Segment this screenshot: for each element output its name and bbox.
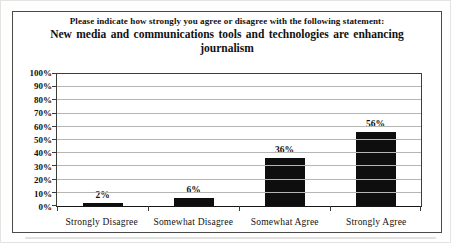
- y-axis-tick: [52, 179, 57, 180]
- category-label-strongly-disagree: Strongly Disagree: [56, 214, 148, 227]
- y-axis-tick: [52, 99, 57, 100]
- gridline: [57, 139, 421, 140]
- scan-shadow-artifact: [25, 237, 436, 239]
- bar-group-somewhat-disagree: 6%: [148, 74, 239, 206]
- gridline: [57, 126, 421, 127]
- y-axis-tick: [52, 73, 57, 74]
- x-axis-tick: [239, 206, 240, 211]
- y-axis-tick-label: 90%: [34, 81, 52, 91]
- gridline: [57, 113, 421, 114]
- category-label-strongly-agree: Strongly Agree: [331, 214, 423, 227]
- gridline: [57, 86, 421, 87]
- x-axis-tick: [330, 206, 331, 211]
- bar-series: 2% 6% 36% 56%: [57, 74, 421, 206]
- y-axis-tick-label: 100%: [30, 68, 53, 78]
- y-axis-tick-label: 10%: [34, 189, 52, 199]
- bar-group-somewhat-agree: 36%: [239, 74, 330, 206]
- gridline: [57, 99, 421, 100]
- y-axis-tick: [52, 113, 57, 114]
- y-axis-tick-label: 30%: [34, 162, 52, 172]
- y-axis-tick: [52, 152, 57, 153]
- category-label-somewhat-agree: Somewhat Agree: [239, 214, 331, 227]
- y-axis-tick-label: 20%: [34, 175, 52, 185]
- bar-value-label: 56%: [366, 120, 385, 130]
- y-axis-tick: [52, 165, 57, 166]
- gridline: [57, 192, 421, 193]
- y-axis-tick: [52, 126, 57, 127]
- y-axis-tick: [52, 139, 57, 140]
- y-axis-tick-label: 80%: [34, 95, 52, 105]
- y-axis-tick-label: 50%: [34, 135, 52, 145]
- plot-area: 2% 6% 36% 56%: [56, 73, 422, 207]
- category-label-somewhat-disagree: Somewhat Disagree: [148, 214, 240, 227]
- gridline: [57, 165, 421, 166]
- scanned-page-background: Please indicate how strongly you agree o…: [0, 0, 451, 243]
- chart-frame: Please indicate how strongly you agree o…: [12, 11, 442, 233]
- x-axis-tick: [57, 206, 58, 211]
- bar-somewhat-disagree: [174, 198, 214, 206]
- chart-title-main: New media and communications tools and t…: [27, 27, 427, 56]
- y-axis-tick-label: 70%: [34, 108, 52, 118]
- bar-group-strongly-disagree: 2%: [57, 74, 148, 206]
- bar-value-label: 36%: [275, 146, 294, 156]
- gridline: [57, 152, 421, 153]
- x-axis-tick: [420, 206, 421, 211]
- chart-title-intro: Please indicate how strongly you agree o…: [13, 16, 441, 26]
- bar-group-strongly-agree: 56%: [330, 74, 421, 206]
- bar-value-label: 6%: [186, 186, 200, 196]
- y-axis-labels: 0%10%20%30%40%50%60%70%80%90%100%: [19, 73, 52, 207]
- y-axis-tick-label: 60%: [34, 122, 52, 132]
- gridline: [57, 179, 421, 180]
- y-axis-tick-label: 0%: [39, 202, 53, 212]
- bar-strongly-disagree: [83, 203, 123, 206]
- bar-strongly-agree: [356, 132, 396, 206]
- y-axis-tick: [52, 192, 57, 193]
- chart-title-block: Please indicate how strongly you agree o…: [13, 16, 441, 56]
- x-axis-category-labels: Strongly Disagree Somewhat Disagree Some…: [56, 214, 422, 227]
- y-axis-tick: [52, 86, 57, 87]
- y-axis-tick-label: 40%: [34, 148, 52, 158]
- x-axis-tick: [148, 206, 149, 211]
